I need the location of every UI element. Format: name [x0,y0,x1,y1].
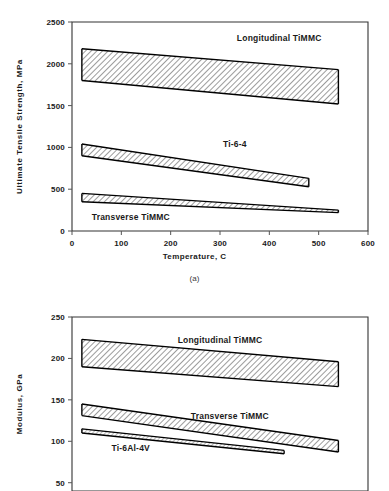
chart-ultimate-tensile-strength: 050010001500200025000100200300400500600U… [0,0,389,250]
chart-b-y-axis-title: Modulus, GPa [15,374,24,435]
chart-b-band-fill [82,339,339,386]
chart-a-y-axis-title: Ultimate Tensile Strength, MPa [15,59,24,194]
chart-a-y-tick-label: 2500 [46,18,65,27]
chart-modulus: 50100150200250Modulus, GPaLongitudinal T… [0,300,389,491]
chart-a-y-tick-label: 500 [51,185,65,194]
chart-b-series-label: Ti-6Al-4V [111,443,150,453]
chart-b-series-label: Longitudinal TiMMC [178,335,263,345]
figure-page: 050010001500200025000100200300400500600U… [0,0,389,491]
chart-a-band-lower-edge [82,156,309,187]
chart-b-y-tick-label: 200 [51,354,65,363]
chart-b-y-tick-label: 50 [56,479,66,488]
chart-a-series-label: Longitudinal TiMMC [237,33,322,43]
chart-b-y-tick-label: 250 [51,313,65,322]
chart-a-x-tick-label: 300 [213,239,227,248]
chart-a-series-label: Transverse TiMMC [92,212,170,222]
chart-a-band-upper-edge [82,144,309,178]
chart-b-y-tick-label: 100 [51,437,65,446]
chart-a-y-tick-label: 1500 [46,102,65,111]
chart-a-x-tick-label: 400 [262,239,276,248]
chart-a-y-tick-label: 0 [60,227,65,236]
chart-a-series-label: Ti-6-4 [223,139,247,149]
chart-a-x-tick-label: 600 [361,239,375,248]
chart-a-y-tick-label: 1000 [46,143,65,152]
chart-b-canvas: 50100150200250Modulus, GPaLongitudinal T… [0,300,389,491]
chart-b-series-label: Transverse TiMMC [191,411,269,421]
chart-b-y-tick-label: 150 [51,396,65,405]
chart-a-canvas: 050010001500200025000100200300400500600U… [0,0,389,250]
chart-a-band-fill [82,144,309,187]
chart-a-x-tick-label: 100 [114,239,128,248]
chart-a-x-tick-label: 200 [164,239,178,248]
figure-subcaption-a: (a) [0,274,389,283]
chart-a-x-tick-label: 500 [312,239,326,248]
chart-a-x-tick-label: 0 [70,239,75,248]
chart-a-band-fill [82,49,339,104]
chart-a-y-tick-label: 2000 [46,60,65,69]
chart-a-x-axis-title: Temperature, C [0,252,389,261]
